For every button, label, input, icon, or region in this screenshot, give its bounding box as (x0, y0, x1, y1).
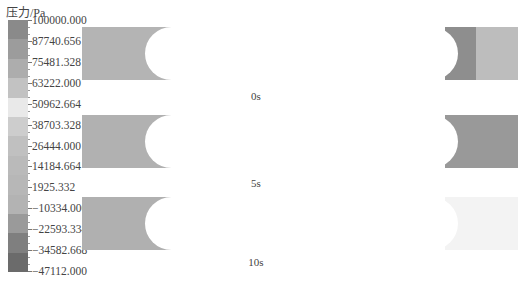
colorbar-minor-tick (28, 69, 30, 70)
colorbar-band (8, 98, 28, 117)
colorbar-tick-label: −10334.000 (32, 202, 87, 214)
colorbar-tick-label: −22593.334 (32, 223, 87, 235)
colorbar-band (8, 156, 28, 175)
colorbar-minor-tick (28, 264, 30, 265)
pressure-panel-0s (82, 27, 518, 80)
colorbar-minor-tick (28, 97, 30, 98)
colorbar-tick-label: 1925.332 (32, 181, 75, 193)
colorbar-band (8, 78, 28, 97)
pressure-panel-5s (82, 115, 518, 168)
colorbar-minor-tick (28, 257, 30, 258)
colorbar-minor-tick (28, 27, 30, 28)
time-label-5s: 5s (251, 177, 261, 189)
colorbar-tick-label: 87740.656 (32, 35, 81, 47)
colorbar-minor-tick (28, 201, 30, 202)
colorbar-minor-tick (28, 153, 30, 154)
colorbar-band (8, 136, 28, 155)
body-capsule (145, 115, 458, 168)
colorbar-band (8, 253, 28, 272)
colorbar-tick-label: 75481.328 (32, 56, 81, 68)
colorbar-minor-tick (28, 160, 30, 161)
colorbar-minor-tick (28, 118, 30, 119)
colorbar-tick-label: 38703.328 (32, 119, 81, 131)
colorbar-minor-tick (28, 215, 30, 216)
colorbar-minor-tick (28, 236, 30, 237)
colorbar-minor-tick (28, 76, 30, 77)
colorbar-tick-label: 100000.000 (32, 14, 87, 26)
colorbar-tick-label: 63222.000 (32, 77, 81, 89)
colorbar-tick-label: 14184.664 (32, 160, 81, 172)
colorbar-band (8, 39, 28, 58)
colorbar-minor-tick (28, 48, 30, 49)
colorbar-tick-label: 26444.000 (32, 140, 81, 152)
pressure-panel-10s (82, 197, 518, 250)
colorbar-minor-tick (28, 173, 30, 174)
colorbar-band (8, 59, 28, 78)
time-label-0s: 0s (251, 90, 261, 102)
colorbar-band (8, 195, 28, 214)
colorbar-minor-tick (28, 34, 30, 35)
body-capsule (145, 197, 458, 250)
colorbar-minor-tick (28, 180, 30, 181)
colorbar-tick-label: 50962.664 (32, 98, 81, 110)
colorbar-minor-tick (28, 222, 30, 223)
body-capsule (145, 27, 458, 80)
colorbar-band (8, 117, 28, 136)
colorbar-minor-tick (28, 90, 30, 91)
colorbar-minor-tick (28, 111, 30, 112)
colorbar-band (8, 175, 28, 194)
colorbar-tick-label: −47112.000 (32, 265, 87, 277)
colorbar-minor-tick (28, 139, 30, 140)
colorbar-band (8, 20, 28, 39)
colorbar-ticks: 100000.00087740.65675481.32863222.000509… (28, 20, 88, 272)
colorbar-band (8, 233, 28, 252)
right-region (476, 27, 518, 80)
time-label-10s: 10s (248, 256, 263, 268)
colorbar-minor-tick (28, 132, 30, 133)
colorbar-minor-tick (28, 243, 30, 244)
colorbar-band (8, 214, 28, 233)
colorbar (8, 20, 28, 272)
colorbar-minor-tick (28, 55, 30, 56)
colorbar-tick-label: −34582.668 (32, 244, 87, 256)
colorbar-minor-tick (28, 194, 30, 195)
